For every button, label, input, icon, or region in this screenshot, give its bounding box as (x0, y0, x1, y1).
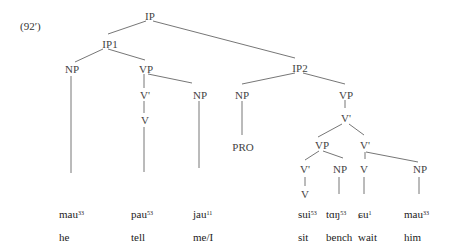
example-number: (92′) (20, 20, 41, 32)
node-v-inner: V (301, 189, 309, 200)
node-v: V (141, 115, 149, 126)
node-np-inner: NP (333, 164, 347, 175)
gloss-bench: bench (326, 231, 352, 243)
word-cu: ɕu1 (358, 208, 371, 220)
gloss-me: me/I (193, 231, 213, 243)
node-vp-inner: VP (315, 140, 329, 151)
node-vbar: V' (140, 90, 150, 101)
node-vbar-inner: V' (300, 164, 310, 175)
word-sui: sui53 (298, 208, 317, 220)
node-vbar-right: V' (360, 140, 370, 151)
gloss-sit: sit (298, 231, 308, 243)
word-jau: jau11 (193, 208, 212, 220)
node-vp-ip2: VP (339, 90, 353, 101)
node-pro: PRO (232, 142, 253, 153)
node-ip: IP (145, 11, 155, 22)
gloss-he: he (59, 231, 69, 243)
word-pau: pau53 (131, 208, 153, 220)
node-ip1: IP1 (102, 39, 117, 50)
word-mau-him: mau33 (404, 208, 429, 220)
gloss-tell: tell (131, 231, 145, 243)
node-v-right: V (360, 164, 368, 175)
word-mau-he: mau33 (59, 208, 84, 220)
node-np-right: NP (413, 164, 427, 175)
node-np-pro: NP (235, 90, 249, 101)
node-vbar-ip2: V' (341, 113, 351, 124)
node-vp: VP (139, 64, 153, 75)
word-tang: tɑŋ53 (326, 208, 346, 220)
node-np-object: NP (193, 90, 207, 101)
gloss-him: him (404, 231, 421, 243)
node-np-subject: NP (65, 64, 79, 75)
gloss-wait: wait (358, 231, 377, 243)
node-ip2: IP2 (292, 63, 307, 74)
